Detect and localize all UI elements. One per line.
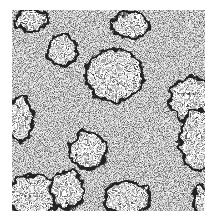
cluster-interior-speckle <box>49 36 75 64</box>
cluster-interior-speckle <box>113 14 147 36</box>
cluster-interior-speckle <box>17 11 47 29</box>
cluster-interior-speckle <box>52 173 82 207</box>
cluster-interior-speckle <box>71 133 105 167</box>
texture-canvas <box>12 10 205 211</box>
cluster-interior-speckle <box>87 50 141 100</box>
noise-texture-image <box>12 10 205 211</box>
